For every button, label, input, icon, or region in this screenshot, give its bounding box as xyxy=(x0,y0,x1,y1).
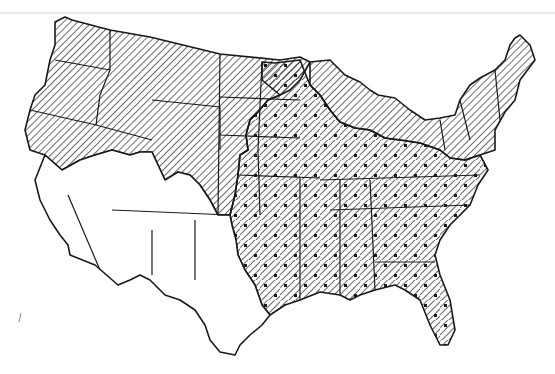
stray-mark xyxy=(19,313,21,322)
us-map xyxy=(0,0,555,374)
